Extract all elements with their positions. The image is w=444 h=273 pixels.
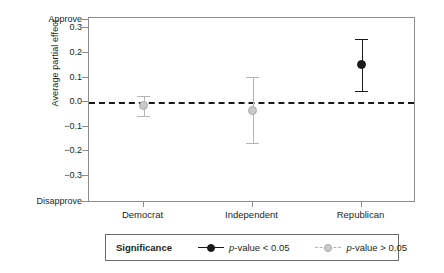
- plot-area: [88, 17, 415, 202]
- x-axis-tick: [361, 202, 362, 207]
- legend: Significance p-value < 0.05 p-value > 0.…: [105, 234, 399, 261]
- x-axis-tick: [143, 202, 144, 207]
- y-axis-tick-label: 0.1: [42, 72, 82, 82]
- y-axis-tick-label: −0.1: [42, 121, 82, 131]
- x-axis-tick: [252, 202, 253, 207]
- data-point-independent: [248, 106, 257, 115]
- x-axis-tick-label: Independent: [192, 209, 312, 220]
- y-axis-bottom-label: Disapprove: [2, 196, 82, 206]
- y-axis-tick-label: 0.3: [42, 22, 82, 32]
- y-axis-tick-label: −0.3: [42, 170, 82, 180]
- data-point-democrat: [139, 101, 148, 110]
- error-bar-cap: [355, 39, 368, 40]
- legend-label-nonsignificant: p-value > 0.05: [346, 242, 407, 253]
- error-bar-cap: [137, 96, 150, 97]
- zero-reference-line: [89, 102, 414, 104]
- y-axis-tick-label: 0.2: [42, 47, 82, 57]
- error-bar-cap: [355, 91, 368, 92]
- legend-item-significant: p-value < 0.05: [198, 242, 290, 253]
- x-axis-tick-label: Republican: [301, 209, 421, 220]
- legend-label-significant: p-value < 0.05: [229, 242, 290, 253]
- error-bar-cap: [246, 143, 259, 144]
- error-bar-cap: [246, 77, 259, 78]
- x-axis-tick-label: Democrat: [83, 209, 203, 220]
- y-axis-tick-label: −0.2: [42, 145, 82, 155]
- legend-marker-significant-icon: [198, 243, 224, 253]
- data-point-republican: [357, 60, 366, 69]
- y-axis-tick-label: 0.0: [42, 96, 82, 106]
- legend-item-nonsignificant: p-value > 0.05: [315, 242, 407, 253]
- chart-figure: Average partial effect 0.30.20.10.0−0.1−…: [0, 0, 444, 273]
- error-bar-cap: [137, 116, 150, 117]
- legend-label-significant-rest: -value < 0.05: [234, 242, 289, 253]
- legend-title: Significance: [116, 242, 172, 253]
- y-axis-top-label: Approve: [2, 14, 82, 24]
- legend-label-nonsignificant-rest: -value > 0.05: [352, 242, 407, 253]
- legend-marker-nonsignificant-icon: [315, 243, 341, 253]
